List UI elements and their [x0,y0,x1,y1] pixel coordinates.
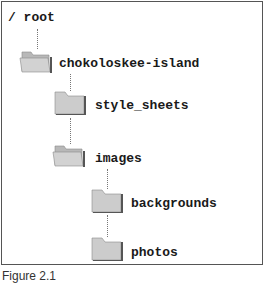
folder-label-images: images [95,151,142,167]
connector-line [107,215,108,237]
folder-icon [91,235,125,261]
connector-line [37,29,38,49]
connector-line [70,118,71,144]
diagram-frame: / root chokoloskee-island style_sheets i… [1,1,263,265]
folder-icon [91,187,125,213]
open-folder-icon [19,48,53,74]
folder-label-backgrounds: backgrounds [131,196,217,212]
folder-label-style-sheets: style_sheets [95,98,189,114]
folder-label-chokoloskee-island: chokoloskee-island [59,56,199,72]
figure-caption: Figure 2.1 [2,269,56,283]
folder-label-photos: photos [131,245,178,261]
open-folder-icon [52,142,86,168]
root-label: / root [8,10,55,26]
folder-icon [54,89,88,115]
connector-line [107,169,108,189]
